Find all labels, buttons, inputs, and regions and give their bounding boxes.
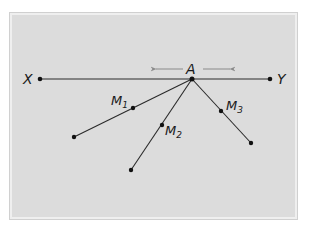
endpoint-2 (129, 168, 133, 172)
label-m1-main: M (111, 93, 122, 108)
point-m1 (131, 106, 135, 110)
label-m2: M2 (165, 123, 182, 140)
label-m3-sub: 3 (237, 105, 243, 115)
label-m3: M3 (226, 98, 243, 115)
label-m1-sub: 1 (122, 100, 128, 110)
endpoint-3 (249, 141, 253, 145)
geometry-diagram: X Y A M1 M2 M3 (0, 0, 309, 231)
label-x: X (22, 71, 33, 87)
label-y: Y (277, 71, 287, 87)
point-a[interactable] (190, 77, 195, 82)
label-m3-main: M (226, 98, 237, 113)
label-m2-sub: 2 (176, 130, 182, 140)
point-x (38, 77, 43, 82)
endpoint-1 (72, 135, 76, 139)
label-a: A (185, 61, 196, 77)
label-m2-main: M (165, 123, 176, 138)
point-y (268, 77, 273, 82)
point-m2 (160, 123, 164, 127)
point-m3 (219, 109, 223, 113)
label-m1: M1 (111, 93, 128, 110)
